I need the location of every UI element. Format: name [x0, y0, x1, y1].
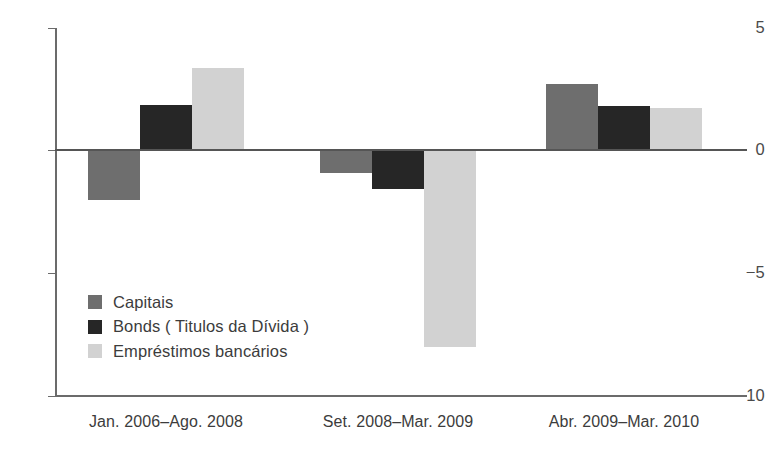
bar-emprestimos-period-1 — [192, 68, 244, 150]
axis-bottom-line — [55, 395, 747, 397]
x-category-label-2: Set. 2008–Mar. 2009 — [288, 413, 508, 431]
plot-area: 5 0 −5 −10 Jan. 2006–Ago. 2008 Set. 2008… — [0, 0, 765, 454]
legend-item-capitais: Capitais — [88, 290, 309, 315]
y-tick-label-neg5: −5 — [721, 263, 765, 282]
legend-item-bonds: Bonds ( Titulos da Dívida ) — [88, 315, 309, 340]
bar-emprestimos-period-3 — [650, 108, 702, 150]
legend-label-capitais: Capitais — [113, 293, 173, 312]
y-axis-line — [55, 28, 57, 396]
chart-legend: Capitais Bonds ( Titulos da Dívida ) Emp… — [88, 290, 309, 364]
legend-item-emprestimos: Empréstimos bancários — [88, 339, 309, 364]
bar-capitais-period-1 — [88, 151, 140, 200]
bar-capitais-period-2 — [320, 151, 372, 173]
legend-swatch-icon-bonds — [88, 320, 102, 334]
bar-bonds-period-1 — [140, 105, 192, 150]
x-category-label-3: Abr. 2009–Mar. 2010 — [514, 413, 734, 431]
y-tick-label-5: 5 — [721, 18, 765, 37]
y-tick-mark-5 — [48, 28, 56, 30]
x-category-label-1: Jan. 2006–Ago. 2008 — [56, 413, 276, 431]
legend-swatch-icon-capitais — [88, 295, 102, 309]
y-tick-mark-neg5 — [48, 273, 56, 275]
bar-chart: 5 0 −5 −10 Jan. 2006–Ago. 2008 Set. 2008… — [0, 0, 765, 454]
bar-capitais-period-3 — [546, 84, 598, 150]
zero-baseline — [55, 149, 747, 151]
legend-swatch-icon-emprestimos — [88, 344, 102, 358]
legend-label-bonds: Bonds ( Titulos da Dívida ) — [113, 317, 309, 336]
bar-bonds-period-3 — [598, 106, 650, 150]
bar-emprestimos-period-2 — [424, 151, 476, 347]
legend-label-emprestimos: Empréstimos bancários — [113, 342, 288, 361]
bar-bonds-period-2 — [372, 151, 424, 189]
